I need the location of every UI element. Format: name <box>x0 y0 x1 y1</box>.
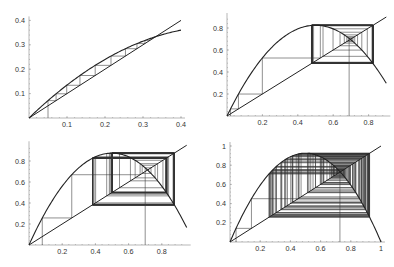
y-tick-label: 1 <box>222 142 226 151</box>
identity-line <box>29 145 187 245</box>
y-tick-label: 0.2 <box>216 218 226 227</box>
y-tick-label: 0.8 <box>216 161 226 170</box>
x-tick-label: 0.2 <box>100 120 110 129</box>
panel-top-right: 0.20.40.60.80.20.40.60.8 <box>213 13 390 127</box>
x-tick-label: 0.8 <box>157 247 167 256</box>
x-tick-label: 0.6 <box>124 247 134 256</box>
identity-line <box>227 17 386 116</box>
cobweb-path <box>311 25 372 116</box>
x-tick-label: 0.4 <box>293 118 303 127</box>
cobweb-figure: 0.10.20.30.40.10.20.30.4 0.20.40.60.80.2… <box>0 0 394 267</box>
y-tick-label: 0.8 <box>213 24 223 33</box>
y-tick-label: 0.4 <box>216 199 226 208</box>
y-tick-label: 0.6 <box>213 46 223 55</box>
cobweb-path <box>269 153 369 242</box>
logistic-curve <box>227 25 386 116</box>
x-tick-label: 0.2 <box>57 247 67 256</box>
y-tick-label: 0.2 <box>213 90 223 99</box>
x-tick-label: 0.6 <box>316 244 326 253</box>
y-tick-label: 0.3 <box>15 40 25 49</box>
x-tick-label: 0.4 <box>90 247 100 256</box>
x-tick-label: 0.8 <box>346 244 356 253</box>
y-tick-label: 0.4 <box>15 199 25 208</box>
logistic-curve <box>29 30 181 118</box>
x-tick-label: 0.8 <box>364 118 374 127</box>
panel-top-left: 0.10.20.30.40.10.20.30.4 <box>15 16 186 129</box>
x-tick-label: 0.6 <box>328 118 338 127</box>
y-tick-label: 0.8 <box>15 157 25 166</box>
x-tick-label: 0.4 <box>285 244 295 253</box>
y-tick-label: 0.2 <box>15 65 25 74</box>
x-tick-label: 0.1 <box>62 120 72 129</box>
identity-line <box>29 20 181 118</box>
y-tick-label: 0.4 <box>213 68 223 77</box>
panel-bottom-right: 0.20.40.60.810.20.40.60.81 <box>216 142 385 254</box>
cobweb-path <box>93 153 175 245</box>
y-tick-label: 0.6 <box>15 178 25 187</box>
cobweb-path <box>48 37 155 118</box>
y-tick-label: 0.4 <box>15 16 25 25</box>
x-tick-label: 0.2 <box>255 244 265 253</box>
x-tick-label: 1 <box>379 244 383 253</box>
y-tick-label: 0.6 <box>216 180 226 189</box>
y-tick-label: 0.1 <box>15 89 25 98</box>
cobweb-path <box>42 153 174 245</box>
panel-bottom-left: 0.20.40.60.80.20.40.60.8 <box>15 141 191 256</box>
x-tick-label: 0.3 <box>138 120 148 129</box>
x-tick-label: 0.2 <box>257 118 267 127</box>
y-tick-label: 0.2 <box>15 220 25 229</box>
x-tick-label: 0.4 <box>176 120 186 129</box>
